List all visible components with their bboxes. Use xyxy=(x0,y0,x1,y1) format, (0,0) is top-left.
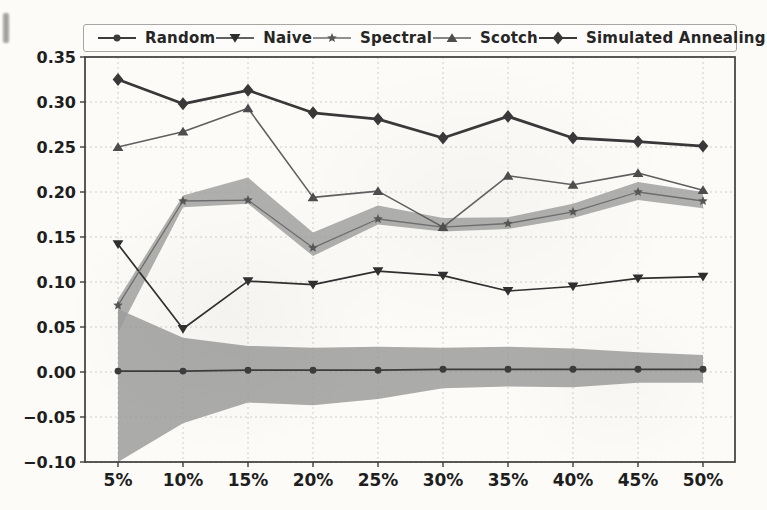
legend-marker-star xyxy=(312,31,352,45)
marker-triangle-up xyxy=(178,127,189,136)
y-tick-label: −0.10 xyxy=(23,453,76,472)
x-tick-label: 35% xyxy=(488,470,529,490)
marker-circle xyxy=(180,368,187,375)
marker-diamond xyxy=(568,132,579,145)
marker-triangle-up xyxy=(373,186,384,195)
x-tick-label: 45% xyxy=(618,470,659,490)
y-tick-label: 0.25 xyxy=(37,138,76,157)
marker-diamond xyxy=(243,84,254,97)
series-naive xyxy=(113,240,709,333)
legend-label: Naive xyxy=(263,29,312,47)
x-tick-label: 15% xyxy=(228,470,269,490)
y-tick-label: −0.05 xyxy=(23,408,76,427)
legend-label: Spectral xyxy=(360,29,432,47)
legend-marker-diamond xyxy=(538,31,578,45)
marker-diamond xyxy=(503,110,514,123)
marker-diamond xyxy=(633,135,644,148)
y-tick-label: 0.15 xyxy=(37,228,76,247)
series-simulated-annealing xyxy=(113,73,709,152)
marker-diamond xyxy=(308,106,319,119)
marker-diamond xyxy=(698,140,709,153)
figure: RandomNaiveSpectralScotchSimulated Annea… xyxy=(0,0,767,510)
series-line xyxy=(118,108,703,227)
legend-item-naive: Naive xyxy=(215,29,312,47)
marker-triangle-up xyxy=(503,171,514,180)
legend-label: Random xyxy=(145,29,215,47)
marker-circle xyxy=(635,366,642,373)
x-tick-label: 30% xyxy=(423,470,464,490)
legend-marker-triangle-down xyxy=(215,31,255,45)
legend-marker-circle xyxy=(97,31,137,45)
marker-triangle-up xyxy=(243,103,254,112)
x-tick-label: 5% xyxy=(104,470,133,490)
marker-circle xyxy=(310,367,317,374)
marker-diamond xyxy=(438,132,449,145)
marker-circle xyxy=(245,367,252,374)
legend-marker-triangle-up xyxy=(432,31,472,45)
x-tick-label: 40% xyxy=(553,470,594,490)
chart-legend: RandomNaiveSpectralScotchSimulated Annea… xyxy=(83,24,737,52)
marker-circle xyxy=(700,366,707,373)
legend-label: Scotch xyxy=(480,29,538,47)
marker-diamond xyxy=(373,113,384,126)
confidence-band xyxy=(118,309,703,462)
series-line xyxy=(118,80,703,147)
legend-item-spectral: Spectral xyxy=(312,29,432,47)
marker-diamond xyxy=(113,73,124,86)
marker-triangle-up xyxy=(633,168,644,177)
y-tick-label: 0.00 xyxy=(37,363,76,382)
legend-item-simulated-annealing: Simulated Annealing xyxy=(538,29,766,47)
y-tick-label: 0.05 xyxy=(37,318,76,337)
x-tick-label: 25% xyxy=(358,470,399,490)
marker-diamond xyxy=(553,32,564,45)
marker-circle xyxy=(115,368,122,375)
x-tick-label: 20% xyxy=(293,470,334,490)
legend-item-scotch: Scotch xyxy=(432,29,538,47)
marker-circle xyxy=(440,366,447,373)
marker-circle xyxy=(570,366,577,373)
legend-label: Simulated Annealing xyxy=(586,29,766,47)
y-tick-label: 0.10 xyxy=(37,273,76,292)
y-tick-label: 0.35 xyxy=(37,48,76,67)
y-tick-label: 0.20 xyxy=(37,183,76,202)
marker-circle xyxy=(114,35,121,42)
x-tick-label: 50% xyxy=(683,470,724,490)
y-tick-label: 0.30 xyxy=(37,93,76,112)
x-tick-label: 10% xyxy=(163,470,204,490)
chart-svg: −0.10−0.050.000.050.100.150.200.250.300.… xyxy=(0,0,767,510)
marker-circle xyxy=(505,366,512,373)
marker-triangle-down xyxy=(178,325,189,334)
series-line xyxy=(118,244,703,329)
marker-star xyxy=(327,33,337,42)
marker-diamond xyxy=(178,97,189,110)
legend-item-random: Random xyxy=(97,29,215,47)
marker-circle xyxy=(375,367,382,374)
